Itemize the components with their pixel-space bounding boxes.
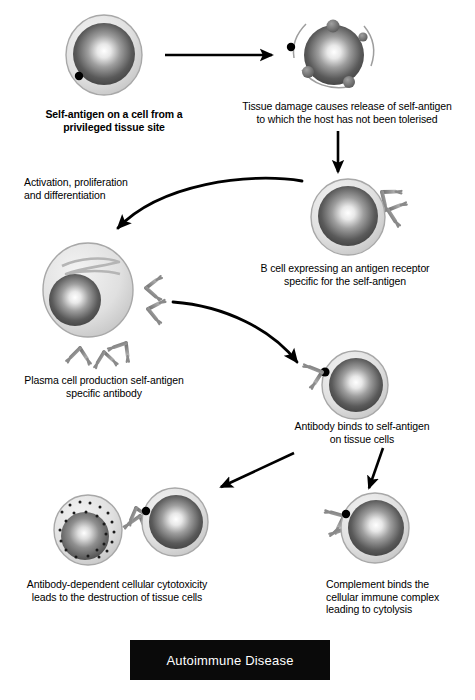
caption-b-cell: B cell expressing an antigen receptor sp… (240, 262, 450, 287)
arrow-antibody-to-tissue (173, 302, 297, 362)
cell-b-cell (311, 173, 407, 255)
antibody (107, 325, 144, 363)
membrane-bleb (302, 66, 314, 78)
self-antigen-dot (342, 510, 350, 518)
antibody (66, 333, 94, 365)
cell-privileged-tissue (66, 15, 142, 95)
ruptured-membrane-arc (364, 26, 374, 66)
cell-effector-killer (54, 495, 122, 565)
caption-self-antigen: Self-antigen on a cell from a privileged… (14, 108, 214, 133)
self-antigen-dot (75, 72, 83, 80)
released-self-antigen-dot (287, 43, 295, 51)
caption-adcc: Antibody-dependent cellular cytotoxicity… (6, 578, 228, 603)
cell-antibody-bound-tissue (303, 351, 388, 419)
banner-label: Autoimmune Disease (166, 653, 293, 668)
autoimmune-disease-diagram: Self-antigen on a cell from a privileged… (0, 0, 475, 700)
caption-tissue-damage: Tissue damage causes release of self-ant… (222, 100, 472, 125)
membrane-bleb (343, 76, 355, 88)
arrow-to-complement (369, 448, 383, 488)
self-antigen-dot (142, 507, 150, 515)
arrow-to-adcc (221, 453, 294, 487)
membrane-bleb (327, 20, 340, 33)
antibody (132, 275, 162, 301)
cell-adcc-target-tissue (142, 488, 208, 556)
cell-complement-tissue (324, 493, 409, 563)
membrane-bleb (358, 32, 367, 41)
caption-complement: Complement binds the cellular immune com… (326, 578, 468, 616)
autoimmune-disease-banner: Autoimmune Disease (130, 640, 330, 680)
caption-antibody-binds: Antibody binds to self-antigen on tissue… (272, 420, 452, 445)
caption-activation: Activation, proliferation and differenti… (24, 176, 174, 201)
cell-plasma-cell (43, 243, 133, 337)
cell-damaged-tissue (287, 20, 374, 89)
antibody (90, 337, 117, 368)
caption-plasma-cell: Plasma cell production self-antigen spec… (4, 374, 204, 399)
